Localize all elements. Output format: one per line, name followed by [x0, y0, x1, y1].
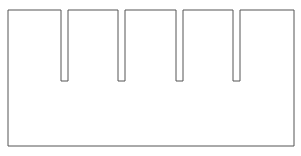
- drawing-canvas: [0, 0, 301, 156]
- comb-outline-path: [8, 10, 294, 146]
- comb-shape-figure: [0, 0, 301, 156]
